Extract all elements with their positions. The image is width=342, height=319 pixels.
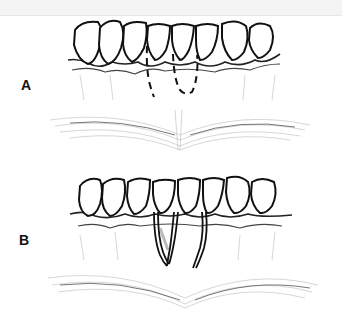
releasing-incisions — [154, 212, 207, 268]
panel-b-illustration — [0, 0, 342, 319]
soft-tissue-hatching-b — [48, 232, 318, 308]
teeth-row-b — [79, 177, 276, 216]
